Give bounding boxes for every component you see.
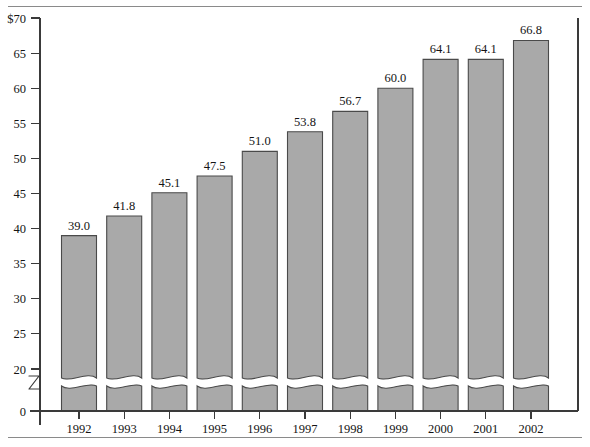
bar-value-label-1997: 53.8 [294, 115, 316, 129]
bar-1995 [197, 176, 232, 379]
bar-1996 [242, 151, 277, 379]
bar-1999 [378, 88, 413, 379]
y-tick-label-70: $70 [7, 12, 26, 26]
bar-stub-1996 [242, 385, 277, 411]
x-tick-label-1992: 1992 [67, 422, 92, 436]
bar-2001 [468, 59, 503, 379]
bar-stub-1995 [197, 385, 232, 411]
bar-value-label-2000: 64.1 [430, 42, 452, 56]
y-tick-label-20: 20 [14, 363, 27, 377]
x-tick-label-1993: 1993 [112, 422, 137, 436]
bar-1994 [152, 193, 187, 379]
bar-value-label-1995: 47.5 [204, 159, 226, 173]
x-tick-label-2000: 2000 [428, 422, 453, 436]
bar-stub-2000 [423, 385, 458, 411]
bar-2002 [514, 40, 549, 379]
x-tick-label-2001: 2001 [473, 422, 498, 436]
y-tick-label-50: 50 [14, 152, 27, 166]
bar-stub-2001 [468, 385, 503, 411]
x-tick-label-1994: 1994 [157, 422, 183, 436]
y-tick-label-65: 65 [14, 47, 27, 61]
x-tick-label-1995: 1995 [202, 422, 227, 436]
bars-layer [62, 40, 549, 411]
x-tick-label-2002: 2002 [519, 422, 544, 436]
bar-2000 [423, 59, 458, 379]
bar-stub-1998 [333, 385, 368, 411]
y-tick-labels: 020253035404550556065$70 [7, 12, 26, 419]
bar-1992 [62, 236, 97, 380]
bar-chart-figure: 020253035404550556065$70 199219931994199… [0, 0, 590, 447]
bar-stub-1992 [62, 385, 97, 411]
y-tick-label-25: 25 [14, 327, 27, 341]
bar-value-label-1992: 39.0 [68, 219, 90, 233]
y-tick-label-30: 30 [14, 292, 27, 306]
x-tick-label-1997: 1997 [293, 422, 318, 436]
y-tick-label-60: 60 [14, 82, 27, 96]
x-tick-labels: 1992199319941995199619971998199920002001… [67, 422, 544, 436]
bar-value-label-1994: 45.1 [158, 176, 180, 190]
bar-value-label-2002: 66.8 [520, 23, 542, 37]
axis-break-symbol [29, 376, 39, 389]
y-tick-label-0: 0 [20, 405, 26, 419]
bar-value-label-1993: 41.8 [113, 199, 135, 213]
x-tick-label-1996: 1996 [247, 422, 272, 436]
y-tick-label-40: 40 [14, 222, 27, 236]
bar-stub-2002 [514, 385, 549, 411]
bar-1993 [107, 216, 142, 379]
y-tick-label-35: 35 [14, 257, 27, 271]
y-tick-label-45: 45 [14, 187, 27, 201]
bar-1997 [288, 132, 323, 380]
bar-value-label-1998: 56.7 [339, 94, 361, 108]
bar-value-label-1996: 51.0 [249, 134, 271, 148]
y-tick-label-55: 55 [14, 117, 27, 131]
x-tick-label-1999: 1999 [383, 422, 408, 436]
bar-stub-1999 [378, 385, 413, 411]
bar-stub-1993 [107, 385, 142, 411]
x-tick-label-1998: 1998 [338, 422, 363, 436]
bar-1998 [333, 111, 368, 379]
bar-stub-1997 [288, 385, 323, 411]
bar-stub-1994 [152, 385, 187, 411]
plot-area: 020253035404550556065$70 199219931994199… [0, 0, 590, 447]
bar-value-label-2001: 64.1 [475, 42, 497, 56]
bar-value-label-1999: 60.0 [384, 71, 406, 85]
